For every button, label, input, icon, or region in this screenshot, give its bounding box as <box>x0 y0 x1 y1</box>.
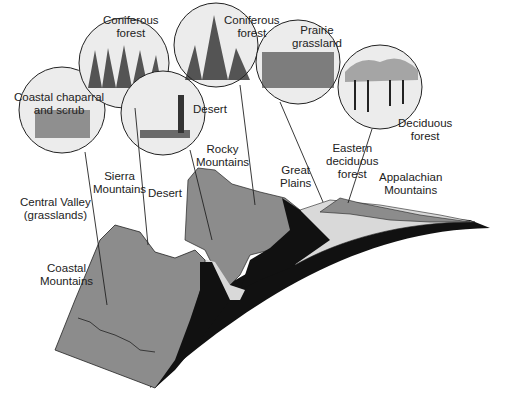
label-deciduous-forest: Deciduousforest <box>398 117 452 143</box>
label-great-plains: GreatPlains <box>280 164 311 190</box>
label-coniferous-forest-rocky: Coniferousforest <box>224 14 280 40</box>
label-appalachian-mountains: AppalachianMountains <box>379 171 442 197</box>
label-desert-biome: Desert <box>193 103 227 116</box>
label-coniferous-forest-west: Coniferousforest <box>103 14 159 40</box>
label-prairie-grassland: Prairiegrassland <box>292 24 342 50</box>
label-sierra-mountains: SierraMountains <box>93 170 146 196</box>
label-coastal-mountains: CoastalMountains <box>40 262 93 288</box>
sierra-coastal-block <box>55 225 205 388</box>
label-desert-region: Desert <box>148 187 182 200</box>
label-rocky-mountains: RockyMountains <box>196 143 249 169</box>
label-central-valley: Central Valley(grasslands) <box>20 196 91 222</box>
label-coastal-chaparral: Coastal chaparraland scrub <box>14 91 104 117</box>
label-eastern-deciduous-forest: Easterndeciduousforest <box>326 142 378 181</box>
